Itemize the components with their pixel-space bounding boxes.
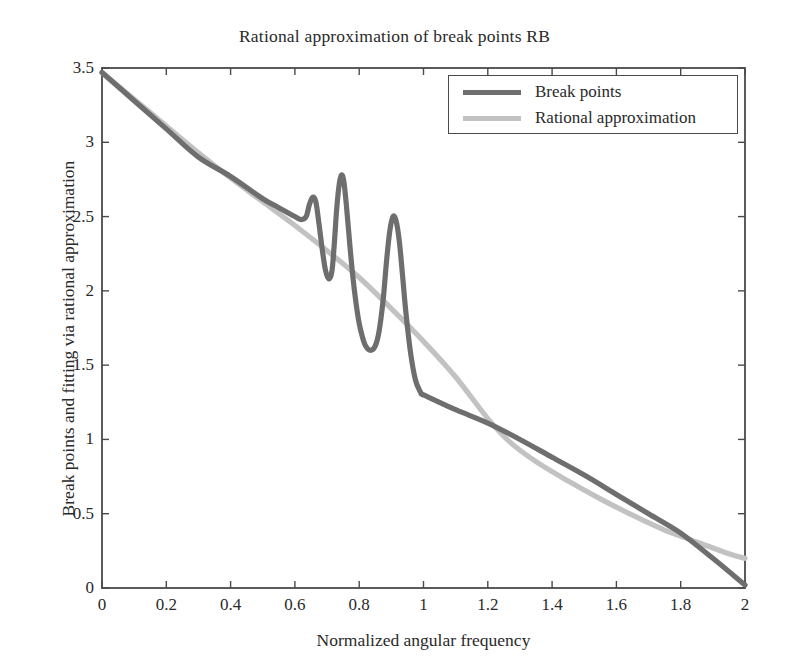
x-tick-label-7: 1.4	[541, 595, 562, 615]
x-tick-label-9: 1.8	[670, 595, 691, 615]
x-tick-label-1: 0.2	[156, 595, 177, 615]
x-tick-label-5: 1	[419, 595, 428, 615]
x-axis-label: Normalized angular frequency	[102, 630, 745, 651]
chart-title: Rational approximation of break points R…	[0, 26, 789, 47]
legend-item-break-points: Break points	[463, 79, 621, 105]
legend-swatch-break-points	[463, 90, 521, 95]
y-tick-label-1: 0.5	[52, 504, 94, 524]
x-tick-label-6: 1.2	[477, 595, 498, 615]
y-axis-label: Break points and fitting via rational ap…	[58, 39, 79, 639]
legend-item-rational-approximation: Rational approximation	[463, 105, 696, 131]
y-tick-label-2: 1	[52, 429, 94, 449]
y-tick-label-0: 0	[52, 578, 94, 598]
y-tick-label-6: 3	[52, 132, 94, 152]
legend-swatch-rational-approximation	[463, 116, 521, 121]
y-tick-label-5: 2.5	[52, 207, 94, 227]
y-tick-label-7: 3.5	[52, 58, 94, 78]
x-tick-label-2: 0.4	[220, 595, 241, 615]
x-tick-label-0: 0	[98, 595, 107, 615]
axes-frame	[102, 68, 745, 588]
legend-label-rational-approximation: Rational approximation	[535, 108, 696, 128]
x-tick-label-4: 0.8	[349, 595, 370, 615]
series-line-rational-approximation	[102, 72, 745, 558]
y-tick-label-3: 1.5	[52, 355, 94, 375]
chart-figure: Rational approximation of break points R…	[0, 0, 789, 670]
x-tick-label-8: 1.6	[606, 595, 627, 615]
chart-legend: Break points Rational approximation	[448, 75, 738, 134]
y-tick-label-4: 2	[52, 281, 94, 301]
x-tick-label-3: 0.6	[284, 595, 305, 615]
legend-label-break-points: Break points	[535, 82, 621, 102]
x-tick-label-10: 2	[741, 595, 750, 615]
